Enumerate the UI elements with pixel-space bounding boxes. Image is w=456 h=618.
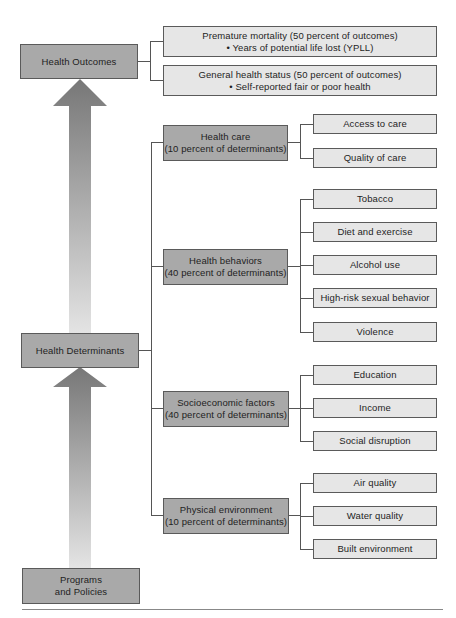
item-tobacco: Tobacco (313, 189, 437, 209)
item-label: Violence (356, 326, 393, 338)
category-share: (10 percent of determinants) (164, 143, 286, 155)
item-air-quality: Air quality (313, 473, 437, 493)
connector (300, 124, 301, 159)
connector (151, 142, 152, 516)
category-health-care: Health care (10 percent of determinants) (163, 125, 288, 161)
connector (150, 80, 163, 81)
connector (300, 375, 313, 376)
health-determinants-node: Health Determinants (21, 333, 139, 368)
connector (288, 266, 300, 267)
health-outcomes-label: Health Outcomes (42, 56, 117, 68)
item-label: Water quality (347, 510, 403, 522)
item-label: Diet and exercise (337, 226, 412, 238)
connector (289, 515, 300, 516)
connector (300, 549, 313, 550)
connector (289, 408, 300, 409)
item-social-disruption: Social disruption (313, 431, 437, 451)
category-share: (40 percent of determinants) (165, 409, 287, 421)
item-violence: Violence (313, 322, 437, 342)
category-socioeconomic: Socioeconomic factors (40 percent of det… (163, 391, 289, 427)
programs-label-line2: and Policies (55, 586, 107, 598)
connector (300, 441, 313, 442)
item-label: Access to care (343, 118, 407, 130)
outcome-general-health: General health status (50 percent of out… (163, 65, 437, 96)
connector (300, 298, 313, 299)
item-label: Social disruption (339, 435, 410, 447)
item-education: Education (313, 365, 437, 385)
health-determinants-label: Health Determinants (36, 345, 125, 357)
category-name: Physical environment (180, 504, 272, 516)
connector (300, 199, 313, 200)
connector (139, 350, 151, 351)
item-label: High-risk sexual behavior (320, 292, 429, 304)
item-label: Income (359, 402, 391, 414)
connector (151, 266, 163, 267)
connector (151, 408, 163, 409)
connector (300, 265, 313, 266)
outcome-premature-mortality: Premature mortality (50 percent of outco… (163, 26, 437, 57)
outcome-bullet: • Years of potential life lost (YPLL) (227, 42, 374, 54)
item-label: Built environment (337, 543, 412, 555)
outcome-title: Premature mortality (50 percent of outco… (202, 30, 398, 42)
connector (151, 515, 163, 516)
programs-label-line1: Programs (60, 574, 102, 586)
item-label: Air quality (354, 477, 397, 489)
outcome-bullet: • Self-reported fair or poor health (229, 81, 370, 93)
item-label: Education (353, 369, 396, 381)
category-name: Socioeconomic factors (177, 397, 275, 409)
connector (138, 61, 150, 62)
outcome-title: General health status (50 percent of out… (198, 69, 401, 81)
item-label: Quality of care (344, 152, 407, 164)
category-share: (10 percent of determinants) (165, 516, 287, 528)
item-built-environment: Built environment (313, 539, 437, 559)
arrow-programs-to-determinants (52, 367, 108, 568)
item-water-quality: Water quality (313, 506, 437, 526)
item-alcohol-use: Alcohol use (313, 255, 437, 275)
connector (300, 408, 313, 409)
item-access-to-care: Access to care (313, 114, 437, 134)
connector (151, 142, 163, 143)
item-high-risk-sexual-behavior: High-risk sexual behavior (313, 288, 437, 308)
health-outcomes-node: Health Outcomes (20, 44, 138, 79)
category-name: Health care (201, 131, 251, 143)
category-health-behaviors: Health behaviors (40 percent of determin… (163, 249, 288, 285)
category-share: (40 percent of determinants) (164, 267, 286, 279)
item-label: Tobacco (357, 193, 393, 205)
connector (300, 158, 313, 159)
connector (300, 124, 313, 125)
item-income: Income (313, 398, 437, 418)
connector (150, 41, 151, 81)
connector (300, 232, 313, 233)
connector (288, 142, 300, 143)
arrow-determinants-to-outcomes (52, 79, 108, 334)
category-physical-environment: Physical environment (10 percent of dete… (163, 498, 289, 534)
bottom-divider (22, 609, 443, 610)
connector (150, 41, 163, 42)
category-name: Health behaviors (189, 255, 262, 267)
connector (300, 516, 313, 517)
connector (300, 483, 313, 484)
programs-policies-node: Programs and Policies (22, 568, 140, 604)
item-label: Alcohol use (350, 259, 400, 271)
item-diet-exercise: Diet and exercise (313, 222, 437, 242)
connector (300, 332, 313, 333)
item-quality-of-care: Quality of care (313, 148, 437, 168)
